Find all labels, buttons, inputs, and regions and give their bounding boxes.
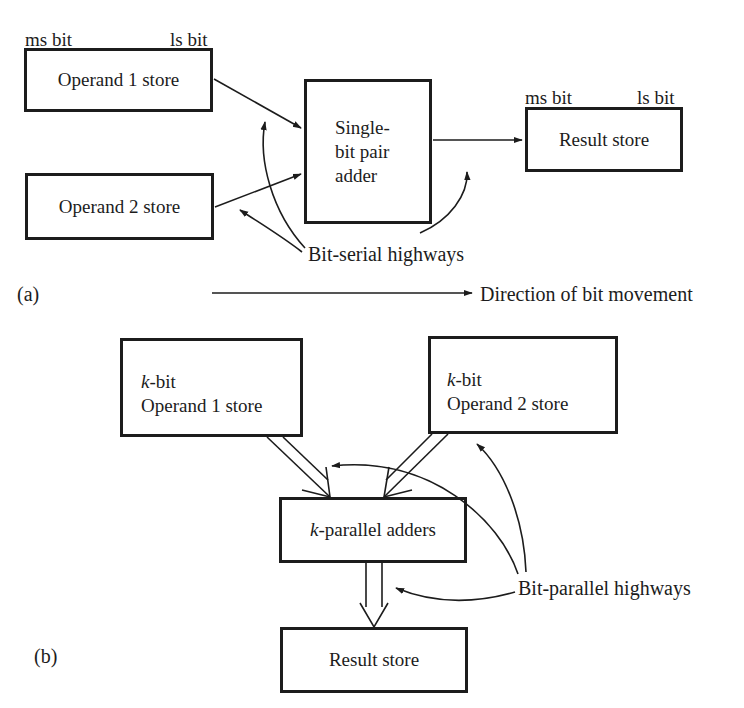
k-parallel-adders-box: k-parallel adders: [279, 497, 467, 563]
result-ms-bit-label: ms bit: [525, 88, 572, 107]
result-ls-bit-label: ls bit: [637, 88, 674, 107]
k-bit-operand1-store-box: k-bit Operand 1 store: [120, 338, 303, 437]
bit-parallel-highways-label: Bit-parallel highways: [518, 578, 691, 598]
adder-label: Single- bit pair adder: [335, 116, 390, 188]
result-store-label-a: Result store: [528, 128, 680, 152]
op1-highway-head: [302, 467, 330, 497]
op1-highway-line-a: [267, 437, 330, 497]
operand2-store-label: Operand 2 store: [28, 195, 211, 219]
op1-ms-bit-label: ms bit: [25, 30, 72, 49]
bit-suffix: -bit: [455, 369, 481, 390]
adders-suffix: -parallel adders: [318, 519, 436, 540]
adder-line-2: bit pair: [335, 140, 390, 164]
adder-line-3: adder: [335, 164, 390, 188]
result-highway-head: [360, 603, 388, 627]
bit-suffix: -bit: [149, 371, 175, 392]
adder-line-1: Single-: [335, 116, 390, 140]
operand2-line2: Operand 2 store: [447, 392, 568, 416]
single-bit-adder-box: Single- bit pair adder: [304, 79, 432, 224]
k-bit-operand2-label: k-bit Operand 2 store: [447, 368, 568, 416]
k-bit-operand2-store-box: k-bit Operand 2 store: [428, 336, 618, 434]
k-bit-operand1-label: k-bit Operand 1 store: [141, 370, 262, 418]
panel-label-a: (a): [17, 284, 39, 304]
result-store-box-b: Result store: [280, 627, 468, 693]
result-store-box-a: Result store: [525, 107, 683, 172]
highway-callout-2: [240, 210, 302, 252]
operand1-store-box: Operand 1 store: [24, 48, 213, 112]
op2-to-adder-arrow: [215, 174, 301, 207]
operand1-line2: Operand 1 store: [141, 394, 262, 418]
panel-label-b: (b): [34, 646, 57, 666]
op2-highway-line-b: [386, 434, 432, 480]
direction-label: Direction of bit movement: [480, 284, 693, 304]
operand2-store-box: Operand 2 store: [25, 173, 214, 240]
op2-highway-head: [384, 467, 412, 497]
k-parallel-adders-label: k-parallel adders: [282, 518, 464, 542]
highway-callout-1: [263, 122, 305, 248]
op1-to-adder-arrow: [214, 79, 301, 128]
op1-ls-bit-label: ls bit: [170, 30, 207, 49]
result-store-label-b: Result store: [283, 648, 465, 672]
parallel-callout-3: [396, 588, 515, 600]
operand1-store-label: Operand 1 store: [27, 68, 210, 92]
op1-highway-line-b: [283, 437, 328, 480]
parallel-callout-2: [477, 444, 526, 572]
bit-serial-highways-label: Bit-serial highways: [308, 244, 464, 264]
op2-highway-line-a: [384, 434, 448, 497]
